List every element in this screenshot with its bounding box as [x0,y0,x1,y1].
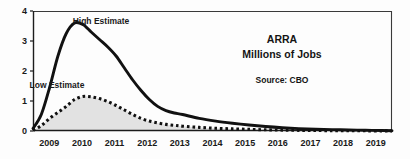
x-axis-tick-label-2018: 2018 [333,138,353,148]
x-axis-tick-label-2011: 2011 [105,138,125,148]
x-axis-tick-label-2015: 2015 [235,138,255,148]
chart-figure: 01234 2009201020112012201320142015201620… [0,0,410,159]
x-axis-tick-labels: 2009201020112012201320142015201620172018… [39,138,385,148]
x-axis-tick-label-2013: 2013 [170,138,190,148]
chart-source-note: Source: CBO [256,75,309,85]
x-axis-tick-label-2017: 2017 [300,138,320,148]
high-estimate-label: High Estimate [73,16,130,26]
arra-jobs-line-chart: 01234 2009201020112012201320142015201620… [0,0,410,159]
y-axis-tick-label-3: 3 [22,36,27,46]
x-axis-tick-label-2014: 2014 [202,138,222,148]
y-axis-tick-label-2: 2 [22,66,27,76]
y-axis-tick-label-4: 4 [22,6,27,16]
x-axis-tick-label-2012: 2012 [137,138,157,148]
chart-title: ARRA [267,33,298,45]
x-axis-tick-label-2016: 2016 [268,138,288,148]
low-estimate-label: Low Estimate [30,80,85,90]
x-axis-tick-label-2010: 2010 [72,138,92,148]
chart-subtitle: Millions of Jobs [242,48,321,60]
y-axis-tick-label-1: 1 [22,96,27,106]
x-axis-tick-label-2009: 2009 [39,138,59,148]
y-axis-tick-label-0: 0 [22,126,27,136]
x-axis-tick-label-2019: 2019 [366,138,386,148]
